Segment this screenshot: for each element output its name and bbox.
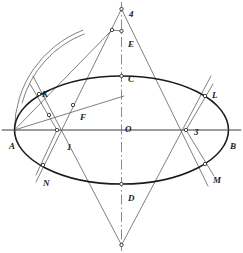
point-marker-4 bbox=[120, 7, 123, 10]
point-label-N: N bbox=[43, 179, 50, 188]
point-label-C: C bbox=[128, 75, 134, 84]
point-marker-K bbox=[37, 92, 40, 95]
point-label-1: 1 bbox=[67, 143, 72, 152]
point-marker-2 bbox=[120, 243, 123, 246]
point-marker-C bbox=[120, 74, 123, 77]
line-4-to-1-ext bbox=[36, 9, 122, 182]
arc-small-F-to-G bbox=[22, 34, 85, 104]
point-marker-3 bbox=[184, 128, 187, 131]
point-marker-H bbox=[47, 113, 50, 116]
geometric-construction-svg bbox=[0, 0, 243, 253]
line-4-to-3-ext bbox=[122, 9, 209, 186]
point-label-K: K bbox=[42, 90, 48, 99]
point-label-3: 3 bbox=[194, 128, 199, 137]
point-marker-F bbox=[71, 103, 74, 106]
point-marker-L bbox=[203, 94, 206, 97]
point-marker-G bbox=[110, 28, 113, 31]
point-label-4: 4 bbox=[129, 10, 134, 19]
point-marker-N bbox=[41, 163, 44, 166]
point-label-O: O bbox=[125, 125, 132, 134]
point-markers-group bbox=[37, 7, 206, 246]
ray-3-to-L-ext bbox=[186, 84, 213, 130]
axis-group bbox=[2, 2, 241, 251]
point-label-D: D bbox=[128, 194, 135, 203]
point-label-F: F bbox=[80, 113, 86, 122]
point-marker-E bbox=[120, 29, 123, 32]
point-label-B: B bbox=[230, 142, 236, 151]
point-marker-1 bbox=[55, 128, 58, 131]
point-label-E: E bbox=[128, 40, 134, 49]
point-label-L: L bbox=[212, 91, 218, 100]
point-marker-D bbox=[120, 182, 123, 185]
point-label-M: M bbox=[213, 176, 221, 185]
point-marker-M bbox=[203, 162, 206, 165]
point-label-A: A bbox=[9, 142, 15, 151]
figure-canvas: ABCDEO1234KLMNF bbox=[0, 0, 243, 253]
